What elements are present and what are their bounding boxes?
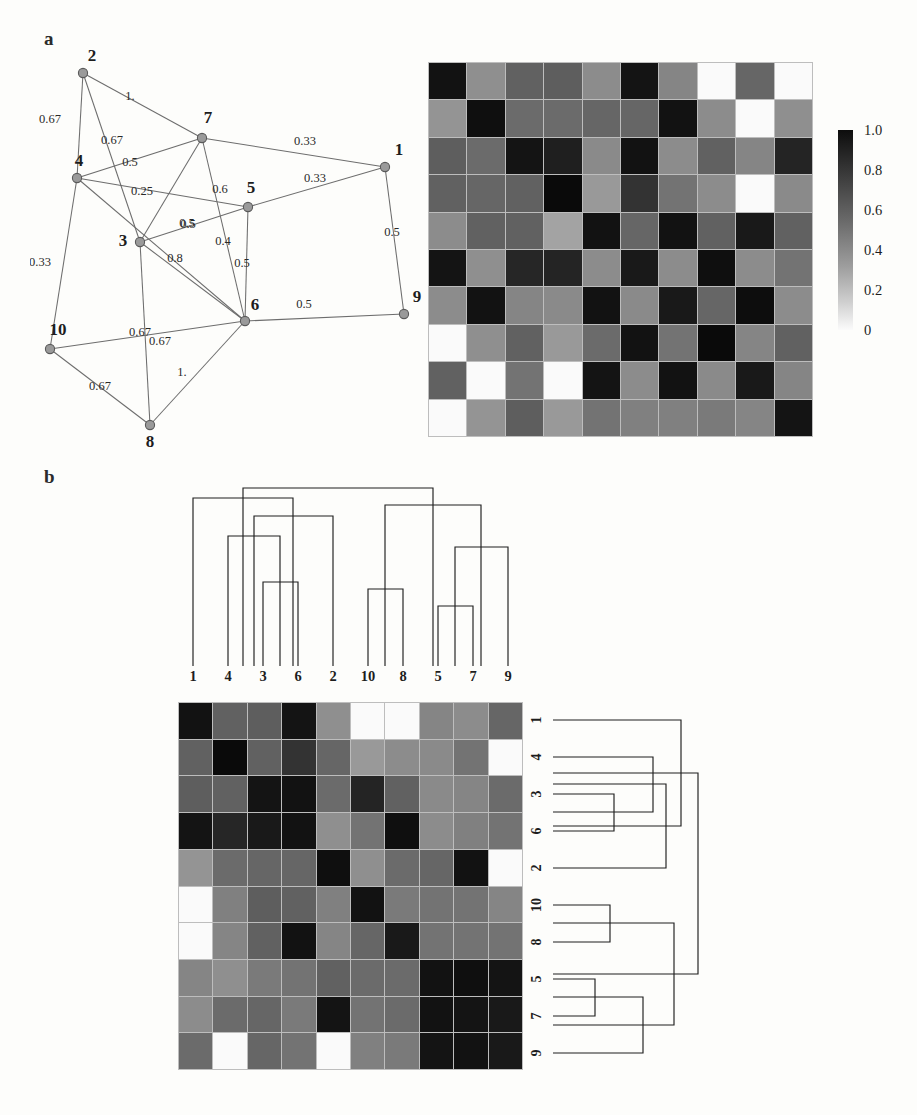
heatmap-unsorted-cell	[736, 250, 773, 286]
dendrogram-top-leaf-label: 8	[399, 668, 406, 685]
graph-node: 1	[380, 140, 403, 172]
heatmap-unsorted-cell	[659, 250, 696, 286]
graph-node-label: 6	[251, 295, 260, 314]
heatmap-unsorted-cell	[736, 175, 773, 211]
heatmap-unsorted-cell	[583, 250, 620, 286]
dendrogram-top-leaf-label: 6	[294, 668, 301, 685]
heatmap-clustered-cell	[454, 997, 487, 1033]
dendrogram-top-leaf-label: 4	[224, 668, 231, 685]
heatmap-unsorted-cell	[736, 325, 773, 361]
heatmap-clustered-cell	[351, 887, 384, 923]
heatmap-unsorted-cell	[621, 175, 658, 211]
heatmap-unsorted-cell	[583, 175, 620, 211]
heatmap-clustered-cell	[454, 923, 487, 959]
heatmap-clustered-cell	[282, 740, 315, 776]
heatmap-clustered-cell	[248, 1033, 281, 1069]
heatmap-clustered-cell	[179, 813, 212, 849]
heatmap-clustered-cell	[385, 960, 418, 996]
heatmap-unsorted-cell	[621, 325, 658, 361]
heatmap-unsorted-cell	[583, 213, 620, 249]
heatmap-clustered-cell	[213, 703, 246, 739]
heatmap-unsorted-cell	[698, 287, 735, 323]
heatmap-clustered-cell	[317, 887, 350, 923]
heatmap-unsorted-cell	[583, 400, 620, 436]
heatmap-unsorted-cell	[621, 138, 658, 174]
heatmap-clustered-cell	[282, 923, 315, 959]
graph-edge-weight-label: 0.5	[384, 225, 400, 239]
graph-node: 8	[145, 420, 154, 450]
heatmap-unsorted-cell	[775, 100, 812, 136]
colorbar-tick-label: 0	[864, 322, 871, 339]
heatmap-unsorted-cell	[506, 138, 543, 174]
heatmap-unsorted-cell	[698, 138, 735, 174]
heatmap-unsorted-cell	[467, 325, 504, 361]
heatmap-clustered-cell	[213, 887, 246, 923]
heatmap-unsorted-cell	[506, 400, 543, 436]
graph-node-label: 2	[88, 46, 97, 65]
heatmap-unsorted-cell	[429, 213, 466, 249]
graph-edge-weight-label: 1.	[125, 89, 134, 103]
heatmap-unsorted-cell	[544, 63, 581, 99]
heatmap-unsorted-cell	[429, 138, 466, 174]
heatmap-clustered-cell	[385, 850, 418, 886]
heatmap-clustered-cell	[489, 923, 522, 959]
heatmap-unsorted-cell	[659, 325, 696, 361]
heatmap-clustered-cell	[489, 960, 522, 996]
heatmap-clustered-cell	[351, 923, 384, 959]
heatmap-unsorted-cell	[544, 175, 581, 211]
graph-node-label: 4	[75, 151, 84, 170]
heatmap-unsorted-cell	[506, 287, 543, 323]
network-graph: 0.671.0.670.50.250.330.330.60.50.330.50.…	[30, 40, 430, 450]
colorbar: 1.00.80.60.40.20	[838, 130, 914, 330]
graph-edge-weight-label: 0.67	[101, 133, 123, 147]
heatmap-clustered-cell	[351, 740, 384, 776]
heatmap-unsorted-cell	[467, 213, 504, 249]
graph-edge	[245, 314, 404, 321]
heatmap-unsorted-cell	[621, 63, 658, 99]
heatmap-clustered-cell	[489, 813, 522, 849]
heatmap-clustered-cell	[317, 850, 350, 886]
colorbar-tick-label: 1.0	[864, 122, 882, 139]
heatmap-unsorted-cell	[736, 287, 773, 323]
heatmap-clustered-cell	[213, 776, 246, 812]
dendrogram-right-leaf-label: 9	[529, 1050, 545, 1057]
heatmap-unsorted-cell	[583, 138, 620, 174]
heatmap-clustered-cell	[420, 740, 453, 776]
heatmap-clustered-cell	[489, 1033, 522, 1069]
heatmap-unsorted-cell	[544, 400, 581, 436]
heatmap-clustered-cell	[213, 1033, 246, 1069]
graph-edge-weight-label: 0.8	[167, 251, 183, 265]
heatmap-unsorted-cell	[506, 100, 543, 136]
graph-edge-weight-label: 0.67	[39, 112, 61, 126]
heatmap-unsorted-cell	[775, 400, 812, 436]
heatmap-clustered-cell	[248, 960, 281, 996]
graph-edge-weight-label: 0.4	[215, 234, 231, 248]
graph-edge	[385, 167, 404, 314]
heatmap-unsorted-cell	[429, 400, 466, 436]
heatmap-unsorted-cell	[698, 175, 735, 211]
heatmap-unsorted-cell	[467, 287, 504, 323]
heatmap-unsorted-cell	[775, 325, 812, 361]
heatmap-unsorted-cell	[467, 362, 504, 398]
heatmap-clustered-cell	[420, 923, 453, 959]
heatmap-unsorted-cell	[736, 63, 773, 99]
heatmap-unsorted-cell	[698, 63, 735, 99]
dendrogram-right-leaf-label: 10	[529, 898, 545, 912]
dendrogram-right-leaf-label: 6	[529, 828, 545, 835]
heatmap-clustered-cell	[420, 960, 453, 996]
heatmap-unsorted-cell	[544, 362, 581, 398]
graph-edge-weight-label: 0.33	[30, 255, 51, 269]
heatmap-clustered-cell	[317, 740, 350, 776]
heatmap-clustered-cell	[454, 850, 487, 886]
heatmap-clustered-cell	[248, 813, 281, 849]
graph-edge-weight-label: 0.5	[122, 155, 138, 169]
colorbar-tick-label: 0.4	[864, 242, 882, 259]
colorbar-tick-label: 0.8	[864, 162, 882, 179]
heatmap-clustered-cell	[351, 960, 384, 996]
heatmap-unsorted-cell	[621, 213, 658, 249]
heatmap-clustered-cell	[179, 776, 212, 812]
heatmap-clustered-cell	[317, 997, 350, 1033]
heatmap-unsorted-cell	[544, 138, 581, 174]
dendrogram-top	[180, 478, 525, 666]
heatmap-clustered-cell	[282, 703, 315, 739]
